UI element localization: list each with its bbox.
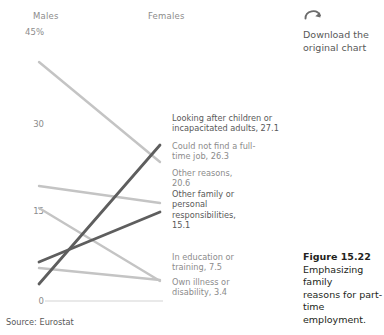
series-label-looking-after-children: Looking after children or incapacitated … (172, 113, 284, 134)
figure-caption: Figure 15.22 Emphasizing family reasons … (303, 251, 384, 326)
series-label-own-illness-or-disability: Own illness or disability, 3.4 (172, 277, 284, 298)
slopegraph-chart: Males Females 45% 30 15 0 Looking after … (0, 0, 300, 335)
curved-download-arrow-icon (303, 6, 325, 26)
series-label-in-education-or-training: In education or training, 7.5 (172, 252, 284, 273)
slope-line-looking-after-children (39, 145, 160, 284)
source-note: Source: Eurostat (6, 317, 74, 327)
download-original-chart-link[interactable]: Download the original chart (303, 6, 383, 54)
slope-line-could-not-find-full-time-job (39, 62, 160, 162)
download-link-label: Download the original chart (303, 29, 383, 54)
figure-caption-text: Emphasizing family reasons for part-time… (303, 264, 384, 327)
series-label-other-family-or-personal-responsibilities: Other family or personal responsibilitie… (172, 189, 284, 231)
series-label-could-not-find-full-time-job: Could not find a full- time job, 26.3 (172, 141, 284, 162)
slope-line-other-reasons (39, 186, 160, 203)
figure-page: Males Females 45% 30 15 0 Looking after … (0, 0, 384, 335)
series-label-other-reasons: Other reasons, 20.6 (172, 168, 284, 189)
figure-number: Figure 15.22 (303, 251, 384, 264)
